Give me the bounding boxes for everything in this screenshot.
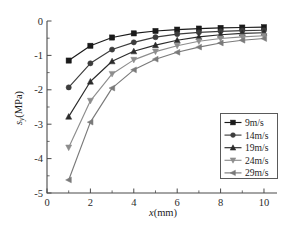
data-point-marker [66,114,72,120]
data-point-marker [153,35,158,40]
data-point-marker [153,28,158,33]
legend-label: 14m/s [245,130,269,141]
x-axis-ticks [47,189,264,194]
legend-label: 29m/s [245,167,269,178]
data-point-marker [66,145,72,151]
x-tick-label: 0 [44,197,49,208]
data-point-marker [131,31,136,36]
line-chart-svg: 0246810 0-1-2-3-4-5 x(mm) sy(MPa) 9m/s14… [0,0,306,234]
data-point-marker [109,58,115,64]
data-point-marker [109,85,115,91]
y-tick-label: -1 [34,50,43,61]
data-point-marker [175,31,180,36]
series-line [69,30,264,87]
y-tick-label: 0 [38,16,43,27]
data-point-marker [131,57,137,63]
data-point-marker [152,56,158,62]
chart-legend[interactable]: 9m/s14m/s19m/s24m/s29m/s [221,114,278,179]
x-tick-label: 10 [259,197,270,208]
data-point-marker [66,85,71,90]
x-tick-label: 4 [131,197,137,208]
x-axis-title-text: x(mm) [148,207,178,219]
y-axis-title: sy(MPa) [13,90,26,125]
x-axis-title: x(mm) [148,207,178,219]
x-tick-label: 2 [88,197,93,208]
legend-label: 9m/s [245,117,264,128]
series-line [69,33,264,117]
chart-figure: 0246810 0-1-2-3-4-5 x(mm) sy(MPa) 9m/s14… [0,0,306,234]
data-point-marker [109,47,114,52]
data-point-marker [66,177,72,183]
y-axis-ticks [47,21,52,193]
data-point-marker [66,58,71,63]
data-point-marker [196,44,202,50]
y-tick-label: -4 [34,153,43,164]
y-tick-label: -5 [34,188,43,199]
data-point-marker [88,61,93,66]
legend-label: 24m/s [245,155,269,166]
data-point-marker [88,43,93,48]
legend-label: 19m/s [245,142,269,153]
x-tick-label: 8 [218,197,223,208]
data-point-marker [131,40,136,45]
y-tick-label: -2 [34,84,43,95]
data-point-marker [87,98,93,104]
y-axis-tick-labels: 0-1-2-3-4-5 [34,16,43,199]
data-point-marker [109,35,114,40]
data-point-marker [231,133,236,138]
data-point-marker [174,49,180,55]
y-tick-label: -3 [34,119,43,130]
y-axis-title-text: sy(MPa) [13,90,26,125]
data-point-marker [231,120,236,125]
series-19m-s [66,30,267,120]
